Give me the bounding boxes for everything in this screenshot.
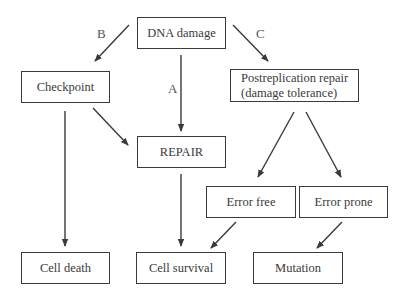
arrow-postreplication-to-error-free xyxy=(258,112,294,177)
arrow-error-prone-to-mutation xyxy=(317,222,342,248)
node-error-prone-label: Error prone xyxy=(315,195,373,210)
node-cell-survival: Cell survival xyxy=(136,252,226,284)
node-checkpoint-label: Checkpoint xyxy=(37,80,95,95)
edge-label-a: A xyxy=(168,81,177,97)
node-error-prone: Error prone xyxy=(299,186,388,218)
node-error-free: Error free xyxy=(206,186,296,218)
edge-label-c: C xyxy=(256,26,265,42)
arrow-error-free-to-cell-survival xyxy=(211,222,236,248)
node-mutation: Mutation xyxy=(253,252,343,284)
node-dna-damage: DNA damage xyxy=(137,17,226,49)
node-error-free-label: Error free xyxy=(227,195,276,210)
node-cell-death-label: Cell death xyxy=(40,261,91,276)
arrow-checkpoint-to-repair xyxy=(93,108,128,145)
node-cell-survival-label: Cell survival xyxy=(149,261,213,276)
node-postreplication-label-line1: Postreplication repair xyxy=(241,71,348,86)
node-repair-label: REPAIR xyxy=(160,145,203,160)
node-postreplication-label-line2: (damage tolerance) xyxy=(241,86,337,101)
node-mutation-label: Mutation xyxy=(275,261,321,276)
arrow-postreplication-to-error-prone xyxy=(306,112,341,177)
node-cell-death: Cell death xyxy=(21,252,110,284)
node-postreplication-repair: Postreplication repair (damage tolerance… xyxy=(230,69,359,102)
node-dna-damage-label: DNA damage xyxy=(147,26,215,41)
node-checkpoint: Checkpoint xyxy=(21,71,110,103)
node-repair: REPAIR xyxy=(137,136,226,168)
edge-label-b: B xyxy=(97,26,106,42)
dna-damage-response-diagram: B A C DNA damage Checkpoint Postreplicat… xyxy=(0,0,408,299)
